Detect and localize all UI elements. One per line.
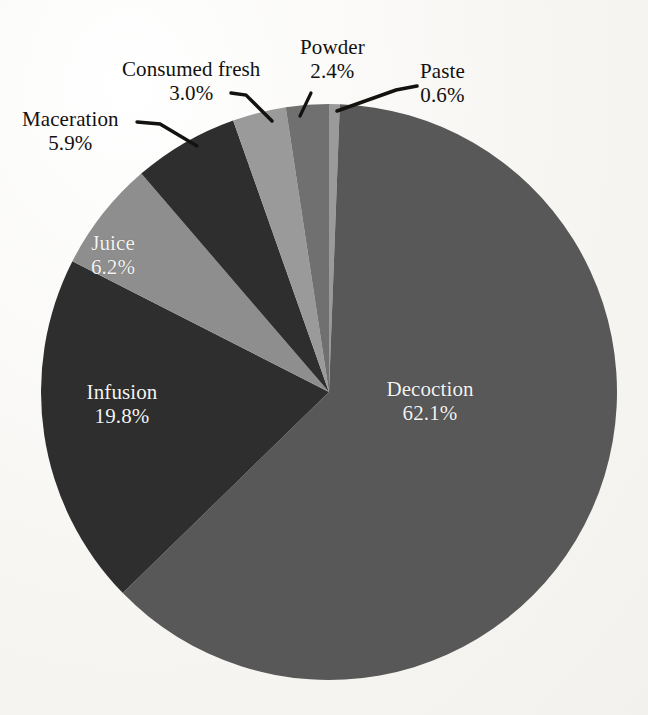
slice-label-infusion: Infusion 19.8% [87,381,158,428]
callout-maceration-pct: 5.9% [22,132,119,156]
callout-paste: Paste 0.6% [420,60,465,107]
callout-consumed-fresh: Consumed fresh 3.0% [122,58,260,105]
callout-powder-name: Powder [300,35,365,59]
slice-label-decoction-pct: 62.1% [386,402,473,426]
slice-label-juice-name: Juice [91,231,135,255]
pie-chart-figure: Maceration 5.9% Consumed fresh 3.0% Powd… [0,0,648,715]
slice-label-infusion-name: Infusion [87,380,158,404]
callout-powder-pct: 2.4% [300,60,365,84]
slice-label-juice: Juice 6.2% [91,232,135,279]
slice-label-decoction: Decoction 62.1% [386,378,473,425]
leader-line-paste [337,86,417,111]
callout-paste-pct: 0.6% [420,84,465,108]
callout-consumed-fresh-name: Consumed fresh [122,57,260,81]
callout-maceration-name: Maceration [22,107,119,131]
callout-consumed-fresh-pct: 3.0% [122,82,260,106]
slice-label-infusion-pct: 19.8% [87,405,158,429]
slice-label-decoction-name: Decoction [386,377,473,401]
callout-powder: Powder 2.4% [300,36,365,83]
callout-paste-name: Paste [420,59,465,83]
callout-maceration: Maceration 5.9% [22,108,119,155]
leader-line-maceration [137,122,197,146]
slice-label-juice-pct: 6.2% [91,256,135,280]
